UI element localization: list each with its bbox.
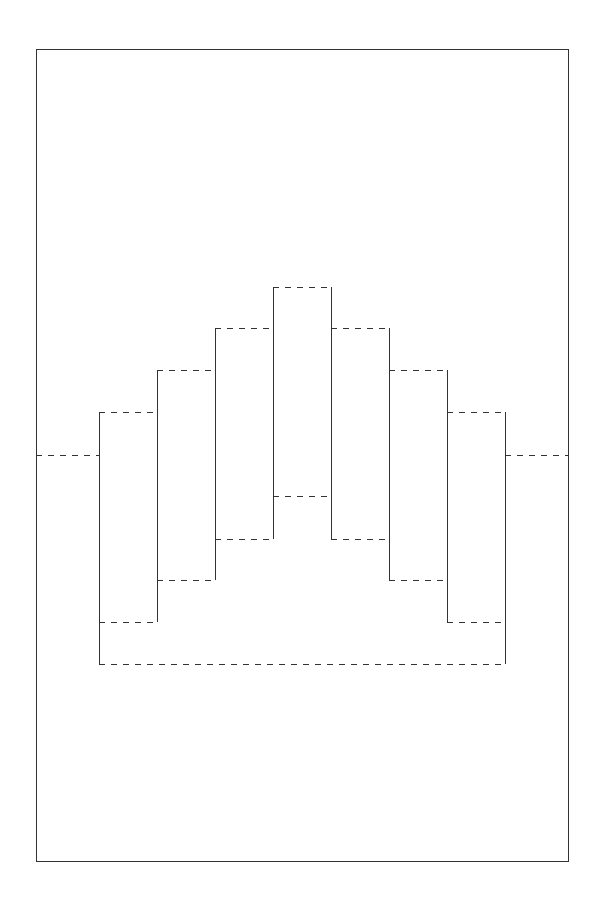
stepped-pyramid bbox=[99, 287, 506, 664]
popup-card-template bbox=[0, 0, 596, 907]
card-frame bbox=[37, 50, 569, 862]
